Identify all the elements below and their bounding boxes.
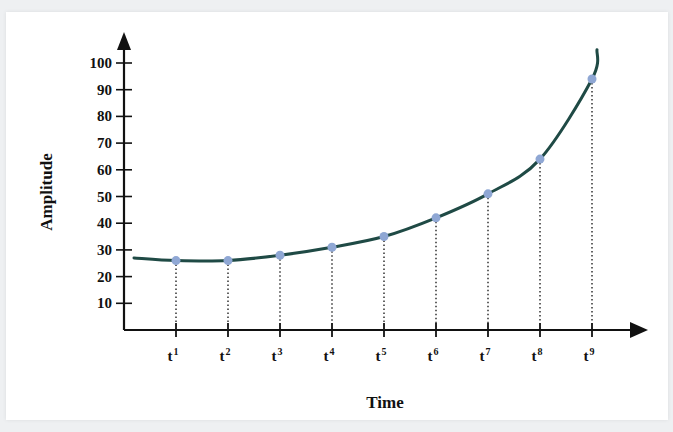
line-chart: 102030405060708090100 t1t2t3t4t5t6t7t8t9…	[0, 0, 673, 432]
x-tick-label: t3	[272, 346, 283, 364]
y-tick-label: 10	[97, 295, 112, 311]
y-tick-label: 90	[97, 82, 112, 98]
x-tick-labels: t1t2t3t4t5t6t7t8t9	[168, 346, 595, 364]
data-point	[328, 243, 337, 252]
y-tick-label: 80	[97, 108, 112, 124]
x-tick-label: t9	[584, 346, 595, 364]
data-point	[172, 256, 181, 265]
x-tick-label: t5	[376, 346, 387, 364]
x-tick-label: t4	[324, 346, 335, 364]
data-point	[224, 256, 233, 265]
y-axis: 102030405060708090100	[90, 32, 133, 330]
data-point	[380, 232, 389, 241]
x-tick-label: t2	[220, 346, 231, 364]
x-axis	[124, 322, 648, 338]
x-tick-label: t7	[480, 346, 491, 364]
drop-lines	[176, 79, 592, 330]
y-tick-label: 40	[97, 215, 112, 231]
x-tick-label: t1	[168, 346, 179, 364]
y-tick-label: 100	[90, 55, 113, 71]
y-tick-label: 20	[97, 269, 112, 285]
data-point	[588, 75, 597, 84]
data-point	[276, 251, 285, 260]
amplitude-curve	[134, 50, 598, 261]
x-tick-label: t6	[428, 346, 439, 364]
data-point	[536, 155, 545, 164]
y-tick-label: 60	[97, 162, 112, 178]
x-tick-label: t8	[532, 346, 543, 364]
y-axis-title: Amplitude	[37, 153, 56, 231]
x-axis-arrow-icon	[630, 322, 648, 338]
y-tick-label: 50	[97, 189, 112, 205]
data-point	[484, 189, 493, 198]
y-tick-label: 30	[97, 242, 112, 258]
data-markers	[172, 75, 597, 266]
data-point	[432, 213, 441, 222]
y-axis-arrow-icon	[117, 32, 131, 50]
x-axis-title: Time	[366, 393, 404, 412]
y-tick-label: 70	[97, 135, 112, 151]
